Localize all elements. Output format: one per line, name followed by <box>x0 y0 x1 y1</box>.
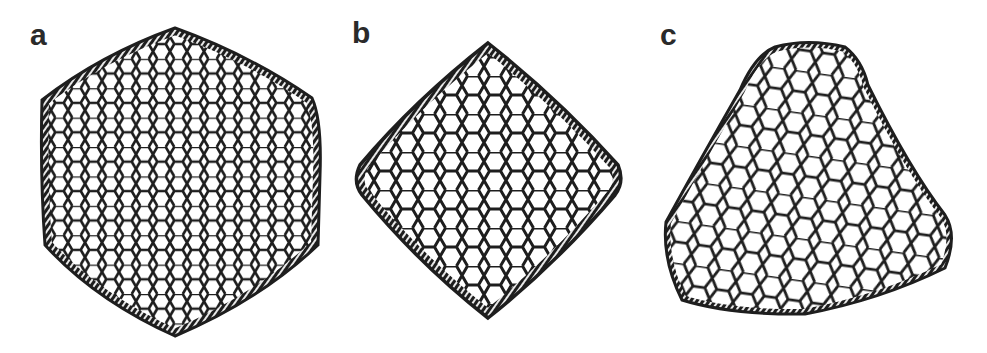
cage-c <box>655 35 965 325</box>
cage-b <box>350 35 630 325</box>
figure-canvas <box>0 0 987 353</box>
cage-a <box>30 20 330 340</box>
